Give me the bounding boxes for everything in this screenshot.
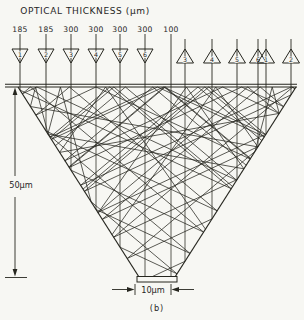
arrow-up-icon	[13, 88, 18, 96]
input-array: 185185300300300300100123456345612	[12, 25, 300, 87]
triangle-number: 1	[264, 56, 268, 63]
ray-paths	[20, 87, 295, 277]
thickness-value: 300	[137, 25, 152, 34]
triangle-number: 2	[289, 56, 293, 63]
exit-aperture-bar	[137, 277, 177, 283]
thickness-value: 300	[112, 25, 127, 34]
thickness-value: 100	[163, 25, 178, 34]
figure-title: OPTICAL THICKNESS (μm)	[20, 6, 150, 16]
triangle-number: 3	[183, 56, 187, 63]
thickness-value: 185	[38, 25, 53, 34]
thickness-value: 300	[88, 25, 103, 34]
triangle-number: 4	[210, 56, 214, 63]
exit-width-label: 10μm	[141, 285, 165, 295]
figure-page: 185185300300300300100123456345612 50μm	[0, 0, 304, 320]
figure-canvas: 185185300300300300100123456345612 50μm	[0, 0, 304, 320]
entrance-face	[5, 84, 297, 87]
arrow-right-icon	[127, 287, 135, 292]
triangle-number: 3	[69, 51, 73, 58]
triangle-number: 6	[143, 51, 147, 58]
thickness-value: 300	[63, 25, 78, 34]
arrow-down-icon	[13, 269, 18, 277]
triangle-number: 1	[18, 51, 22, 58]
cone-left-wall	[18, 87, 139, 277]
triangle-number: 5	[118, 51, 122, 58]
depth-label: 50μm	[9, 180, 33, 190]
triangle-number: 5	[235, 56, 239, 63]
thickness-value: 185	[12, 25, 27, 34]
triangle-number: 2	[44, 51, 48, 58]
depth-dimension: 50μm	[5, 88, 33, 278]
triangle-number: 4	[94, 51, 98, 58]
exit-dimension: 10μm	[112, 284, 194, 295]
figure-caption: (b)	[150, 303, 165, 313]
